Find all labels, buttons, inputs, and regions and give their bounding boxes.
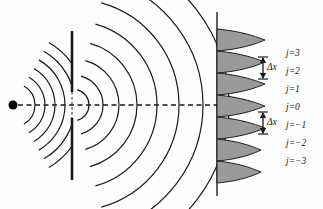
diffraction-diagram-canvas	[0, 0, 323, 209]
point-source-dot	[9, 101, 18, 110]
fringe-spacing-upper-text: Δx	[267, 63, 277, 73]
spacing-arrowhead-down	[260, 73, 266, 79]
intensity-fringe-peak	[217, 51, 265, 73]
intensity-fringes	[217, 29, 265, 183]
fringe-spacing-lower-text: Δx	[267, 118, 277, 128]
intensity-fringe-peak	[217, 73, 265, 95]
order-label-jm1: j=−1	[286, 121, 306, 131]
order-label-jm3: j=−3	[286, 157, 306, 167]
intensity-fringe-peak	[217, 139, 261, 161]
spacing-arrowhead-down	[260, 128, 266, 134]
diffraction-figure: j=3j=2j=1j=0j=−1j=−2j=−3 ΔxΔx	[0, 0, 323, 209]
intensity-fringe-peak	[217, 95, 265, 117]
order-label-j0: j=0	[286, 103, 300, 113]
order-label-jm2: j=−2	[286, 139, 306, 149]
order-label-j3: j=3	[286, 49, 300, 59]
order-label-j1: j=1	[286, 85, 300, 95]
order-label-j2: j=2	[286, 67, 300, 77]
spacing-arrowhead-up	[260, 112, 266, 118]
intensity-fringe-peak	[217, 117, 265, 139]
diffracted-wavefront-arc	[81, 76, 103, 134]
intensity-fringe-peak	[217, 29, 265, 51]
intensity-fringe-peak	[217, 161, 261, 183]
